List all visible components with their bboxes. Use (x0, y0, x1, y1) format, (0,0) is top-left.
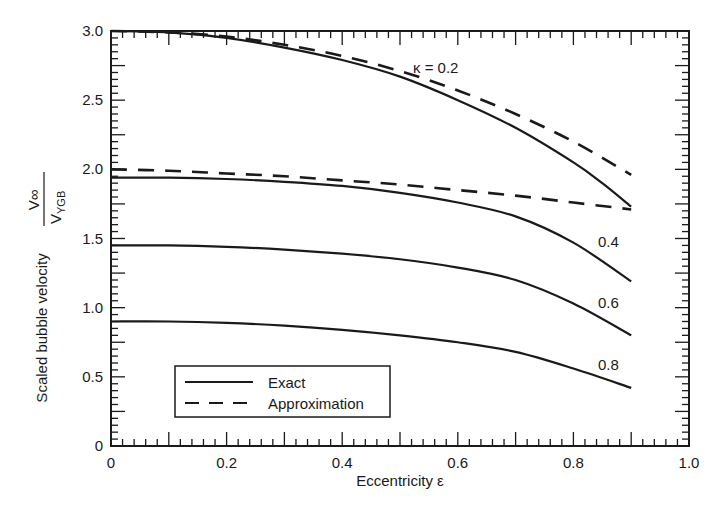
y-tick-label: 3.0 (82, 22, 103, 39)
data-curves (111, 31, 631, 388)
annotation-kappa-0.6: 0.6 (598, 294, 619, 311)
x-tick-label: 0.6 (447, 454, 468, 471)
y-tick-label: 0 (95, 437, 103, 454)
y-axis-title-denominator: VYGB (47, 191, 67, 224)
x-tick-label: 0.4 (332, 454, 353, 471)
y-axis-title: Scaled bubble velocity V∞ VYGB (25, 172, 67, 403)
x-tick-label: 0 (107, 454, 115, 471)
x-tick-label: 0.2 (216, 454, 237, 471)
y-tick-label: 2.0 (82, 160, 103, 177)
legend-label-exact: Exact (268, 374, 306, 391)
legend: Exact Approximation (175, 366, 390, 417)
annotation-kappa-0.2: κ = 0.2 (413, 59, 458, 76)
x-axis-title: Eccentricity ε (356, 472, 444, 489)
x-tick-label: 1.0 (679, 454, 700, 471)
annotation-kappa-0.8: 0.8 (598, 356, 619, 373)
y-axis-title-numerator: V∞ (25, 189, 42, 210)
chart: 00.20.40.60.81.000.51.01.52.02.53.0 κ = … (0, 0, 725, 515)
exact-curve-kappa-0.4 (111, 178, 631, 282)
y-tick-label: 1.5 (82, 230, 103, 247)
exact-curve-kappa-0.2 (111, 31, 631, 207)
x-tick-label: 0.8 (563, 454, 584, 471)
approximation-curve-kappa-0.2 (111, 31, 631, 175)
annotation-kappa-0.4: 0.4 (598, 233, 619, 250)
legend-label-approximation: Approximation (268, 395, 364, 412)
y-tick-label: 0.5 (82, 368, 103, 385)
y-tick-label: 2.5 (82, 91, 103, 108)
y-tick-label: 1.0 (82, 299, 103, 316)
y-axis-title-text: Scaled bubble velocity (33, 253, 50, 403)
